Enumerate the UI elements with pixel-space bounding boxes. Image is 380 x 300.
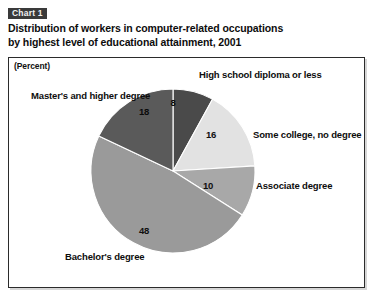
slice-value-bachelors: 48 xyxy=(139,225,149,236)
pie-slice-group xyxy=(91,89,255,253)
category-label-masters: Master's and higher degree xyxy=(31,90,150,101)
title-line-1: Distribution of workers in computer-rela… xyxy=(8,22,368,36)
category-label-high-school: High school diploma or less xyxy=(199,69,322,80)
pie-chart: 8 16 10 48 18 High school diploma or les… xyxy=(9,58,364,287)
slice-value-masters: 18 xyxy=(139,106,149,117)
slice-value-associate: 10 xyxy=(203,180,213,191)
chart-number-badge: Chart 1 xyxy=(8,8,47,19)
title-line-2: by highest level of educational attainme… xyxy=(8,36,368,50)
chart-plot-area: (Percent) 8 16 10 48 18 High school dipl… xyxy=(8,57,365,288)
category-label-bachelors: Bachelor's degree xyxy=(65,251,144,262)
page-title: Distribution of workers in computer-rela… xyxy=(8,22,368,49)
slice-value-some-college: 16 xyxy=(206,129,216,140)
category-label-associate: Associate degree xyxy=(256,180,332,191)
chart-header: Chart 1 Distribution of workers in compu… xyxy=(8,2,368,49)
category-label-some-college: Some college, no degree xyxy=(253,129,361,140)
slice-value-high-school: 8 xyxy=(170,97,175,108)
